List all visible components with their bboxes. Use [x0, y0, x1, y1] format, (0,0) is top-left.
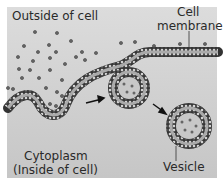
- membrane-label-line2: membrane: [157, 20, 223, 33]
- vesicle-label: Vesicle: [163, 161, 205, 174]
- cytoplasm-label-line1: Cytoplasm: [24, 150, 88, 163]
- cytoplasm-label-line2: (Inside of cell): [13, 164, 98, 177]
- outside-label: Outside of cell: [12, 10, 98, 23]
- membrane-label-line1: Cell: [177, 6, 199, 19]
- budding-vesicle: [113, 72, 145, 104]
- vesicle: [171, 108, 207, 144]
